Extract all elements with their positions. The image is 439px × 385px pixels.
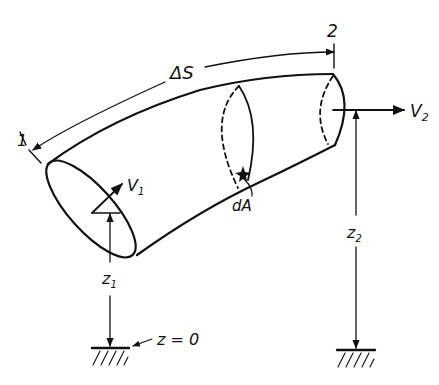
elevation-2-label: z2 [346, 223, 362, 244]
velocity-2-label: V2 [410, 101, 429, 124]
velocity-1-label: V1 [127, 176, 144, 197]
velocity-1-arrow [92, 184, 122, 213]
station-2-label: 2 [327, 21, 338, 41]
station-1-label: 1 [17, 131, 27, 150]
datum-label: z = 0 [156, 330, 199, 349]
diagram-svg: 1 2 ΔS dA V1 z1 z = 0 [0, 0, 439, 385]
datum-ground-2 [337, 350, 375, 367]
streamtube-diagram: 1 2 ΔS dA V1 z1 z = 0 [0, 0, 439, 385]
arc-length-label: ΔS [168, 62, 194, 83]
datum-ground-1 [92, 339, 152, 365]
elevation-1-label: z1 [101, 269, 117, 290]
area-element-label: dA [232, 197, 252, 215]
streamtube-outline [33, 74, 344, 270]
